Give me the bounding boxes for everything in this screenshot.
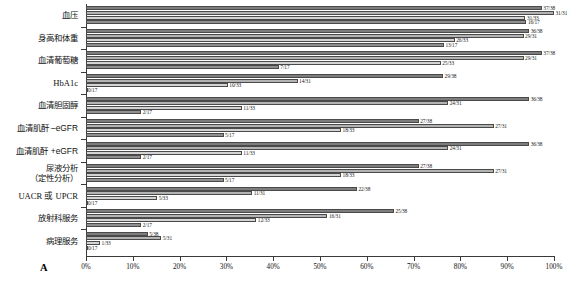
x-axis-tick <box>273 256 274 261</box>
bar <box>86 29 529 33</box>
bar <box>86 101 448 105</box>
bar <box>86 164 419 168</box>
x-axis-tick-label: 40% <box>267 263 280 271</box>
y-axis-category-labels: 血压身高和体重血清葡萄糖HbA1c血清胆固醇血清肌酐 –eGFR血清肌酐 +eG… <box>0 4 82 252</box>
bar-group-row: 5/33 <box>86 196 554 200</box>
bar-group-row: 0/17 <box>86 88 554 92</box>
bar <box>86 6 542 10</box>
x-axis-tick <box>180 256 181 261</box>
bar-group-row: 29/31 <box>86 56 554 60</box>
bar <box>86 209 394 213</box>
bar <box>86 106 242 110</box>
bar <box>86 232 148 236</box>
bar <box>86 151 242 155</box>
bar <box>86 178 224 182</box>
x-axis-tick <box>507 256 508 261</box>
y-axis-label: 血压 <box>62 10 78 20</box>
bar-group-row: 37/38 <box>86 51 554 55</box>
bar-group-row: 36/38 <box>86 97 554 101</box>
bar-group-row: 7/17 <box>86 65 554 69</box>
bar <box>86 16 525 20</box>
y-axis-label: UACR 或 UPCR <box>18 191 78 201</box>
x-axis-tick <box>320 256 321 261</box>
y-axis-label: 身高和体重 <box>38 33 78 43</box>
x-axis-tick-label: 80% <box>454 263 467 271</box>
bar-value-label: 2/17 <box>143 154 152 160</box>
bar-group-row: 27/38 <box>86 119 554 123</box>
bar <box>86 38 455 42</box>
bar <box>86 191 252 195</box>
bar-group-row: 13/17 <box>86 43 554 47</box>
bar <box>86 11 554 15</box>
bar <box>86 173 341 177</box>
y-axis-label: 血清葡萄糖 <box>38 55 78 65</box>
bar-value-label: 16/17 <box>528 19 540 25</box>
bar <box>86 236 161 240</box>
x-axis-tick <box>226 256 227 261</box>
bar <box>86 79 298 83</box>
x-axis-tick-label: 100% <box>546 263 563 271</box>
bar-group-row: 31/33 <box>86 16 554 20</box>
bar-group-row: 37/38 <box>86 6 554 10</box>
bar <box>86 142 529 146</box>
plot-area: 37/3831/3131/3316/1736/3829/3126/3313/17… <box>86 4 554 252</box>
bar-group-row: 5/17 <box>86 178 554 182</box>
bar-group-row: 16/17 <box>86 20 554 24</box>
x-axis-tick <box>133 256 134 261</box>
bar-value-label: 31/31 <box>556 10 567 16</box>
x-axis-tick-label: 10% <box>126 263 139 271</box>
bar-group-row: 5/31 <box>86 236 554 240</box>
x-axis-tick-label: 60% <box>360 263 373 271</box>
panel-letter: A <box>40 262 48 273</box>
x-axis-tick-label: 70% <box>407 263 420 271</box>
bar <box>86 155 141 159</box>
bar-group-row: 25/33 <box>86 61 554 65</box>
bar-value-label: 0/17 <box>88 200 97 206</box>
bar <box>86 223 141 227</box>
x-axis-tick-label: 0% <box>81 263 91 271</box>
bar <box>86 133 224 137</box>
y-axis-label: HbA1c <box>53 78 78 88</box>
bar-group-row: 0/17 <box>86 246 554 250</box>
bar <box>86 61 441 65</box>
y-axis-label: 病理服务 <box>46 236 78 246</box>
bar-group-row: 24/31 <box>86 101 554 105</box>
bar-group-row: 10/33 <box>86 83 554 87</box>
bar <box>86 43 444 47</box>
bar-group-row: 2/17 <box>86 110 554 114</box>
x-axis-tick <box>554 256 555 261</box>
bar-group-row: 11/31 <box>86 191 554 195</box>
bar <box>86 97 529 101</box>
x-axis-tick-label: 90% <box>501 263 514 271</box>
bar-value-label: 0/17 <box>88 87 97 93</box>
bar-group-row: 16/31 <box>86 214 554 218</box>
y-axis-label: 血清肌酐 +eGFR <box>16 146 78 156</box>
bar <box>86 218 256 222</box>
bar-group-row: 18/33 <box>86 128 554 132</box>
y-axis-label: 尿液分析（定性分析） <box>30 163 78 183</box>
bar-group-row: 36/38 <box>86 29 554 33</box>
x-axis-tick <box>414 256 415 261</box>
y-axis-label: 放射科服务 <box>38 213 78 223</box>
bar-group-row: 11/33 <box>86 151 554 155</box>
bar <box>86 83 228 87</box>
bar-value-label: 5/17 <box>225 132 234 138</box>
bar-value-label: 2/17 <box>143 109 152 115</box>
bar <box>86 56 524 60</box>
bar <box>86 74 443 78</box>
bar-value-label: 13/17 <box>446 42 458 48</box>
bar-group-row: 29/38 <box>86 74 554 78</box>
bar-group-row: 5/17 <box>86 133 554 137</box>
bar-value-label: 2/17 <box>143 222 152 228</box>
x-axis-tick <box>460 256 461 261</box>
x-axis-tick <box>86 256 87 261</box>
bar <box>86 146 448 150</box>
bar-value-label: 7/17 <box>280 64 289 70</box>
x-axis-tick-label: 30% <box>220 263 233 271</box>
bar <box>86 20 526 24</box>
bar <box>86 51 542 55</box>
bar-value-label: 5/17 <box>225 177 234 183</box>
bar <box>86 214 327 218</box>
bar-value-label: 0/17 <box>88 245 97 251</box>
